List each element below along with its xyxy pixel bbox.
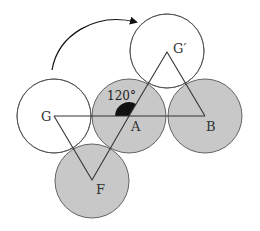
- label-g-prime: G′: [173, 41, 186, 56]
- label-b: B: [206, 119, 216, 134]
- label-g: G: [41, 109, 51, 124]
- rotation-diagram: 120° G A B G′ F: [0, 0, 260, 231]
- diagram-canvas: 120° G A B G′ F: [0, 0, 260, 231]
- angle-label: 120°: [107, 89, 136, 103]
- label-f: F: [96, 182, 105, 197]
- rotation-arrow-icon: [52, 20, 136, 70]
- label-a: A: [130, 119, 141, 134]
